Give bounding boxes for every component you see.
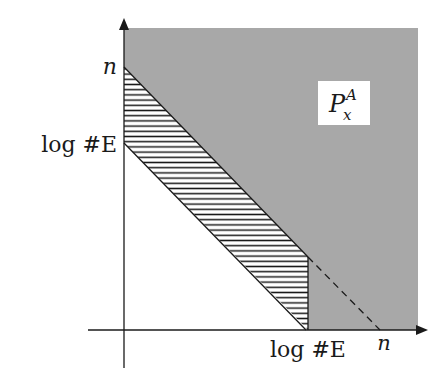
y-tick-log-e: log #E — [41, 132, 117, 157]
x-axis-arrow-icon — [416, 325, 428, 335]
y-tick-n: n — [103, 54, 117, 79]
x-tick-n: n — [377, 331, 391, 355]
region-label-sub: x — [343, 106, 352, 124]
diagram-canvas: n log #E log #E n P A x — [0, 0, 448, 388]
y-axis-arrow-icon — [119, 18, 129, 30]
region-label-sup: A — [344, 86, 357, 104]
x-tick-log-e: log #E — [270, 337, 346, 362]
